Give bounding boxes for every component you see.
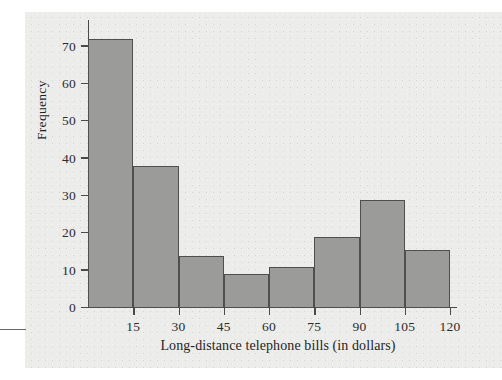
y-axis-tick-label: 0: [69, 300, 76, 316]
x-axis-tick-label: 90: [353, 319, 367, 335]
histogram-bar: [405, 250, 450, 308]
x-axis-tick-label: 75: [307, 319, 321, 335]
page-margin-rule: [0, 329, 26, 330]
x-axis-tick-label: 105: [394, 319, 415, 335]
x-axis-tick: [360, 307, 361, 315]
x-axis-tick: [133, 307, 134, 315]
histogram-bar: [88, 39, 133, 308]
y-axis-tick: [81, 269, 89, 270]
x-axis-tick: [405, 307, 406, 315]
y-axis-tick-label: 70: [62, 39, 76, 55]
x-axis-tick-label: 15: [126, 319, 140, 335]
y-axis-title: Frequency: [34, 80, 50, 140]
y-axis-tick-label: 10: [62, 263, 76, 279]
figure-page: Frequency 010203040506070 15304560759010…: [0, 0, 502, 380]
x-axis-tick: [179, 307, 180, 315]
histogram-bar: [360, 200, 405, 308]
x-axis-tick: [450, 307, 451, 315]
y-axis-tick: [81, 307, 89, 308]
x-axis-tick: [269, 307, 270, 315]
histogram-bar: [224, 274, 269, 308]
y-axis-tick-label: 30: [62, 188, 76, 204]
x-axis-tick-label: 45: [217, 319, 231, 335]
y-axis-tick: [81, 120, 89, 121]
histogram-plot-area: 010203040506070 153045607590105120: [88, 28, 450, 308]
y-axis-tick: [81, 195, 89, 196]
y-axis-tick-label: 50: [62, 113, 76, 129]
x-axis-tick-label: 30: [172, 319, 186, 335]
x-axis-tick: [314, 307, 315, 315]
y-axis-tick: [81, 83, 89, 84]
histogram-bar: [179, 256, 224, 308]
histogram-bar: [314, 237, 359, 308]
y-axis-tick-label: 40: [62, 151, 76, 167]
y-axis-tick-label: 20: [62, 225, 76, 241]
x-axis-title: Long-distance telephone bills (in dollar…: [88, 338, 468, 354]
histogram-bar: [269, 267, 314, 308]
x-axis-tick-label: 120: [440, 319, 461, 335]
x-axis-tick: [224, 307, 225, 315]
y-axis-tick: [81, 157, 89, 158]
y-axis-tick: [81, 232, 89, 233]
x-axis-tick-label: 60: [262, 319, 276, 335]
y-axis-tick-label: 60: [62, 76, 76, 92]
histogram-bar: [133, 166, 178, 308]
y-axis-tick: [81, 45, 89, 46]
